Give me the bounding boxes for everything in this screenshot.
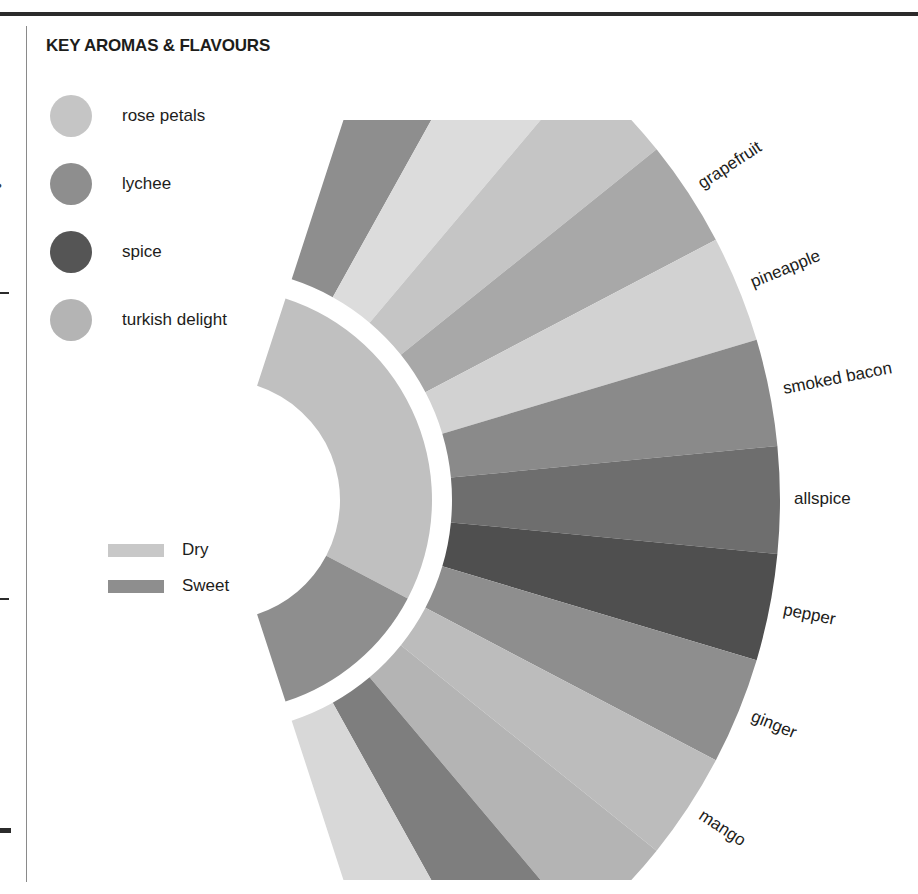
legend-title: KEY AROMAS & FLAVOURS — [46, 36, 376, 56]
aroma-fan-chart: lycheelemon verbenarose petalsgrapefruit… — [150, 120, 918, 880]
aroma-fan-svg: lycheelemon verbenarose petalsgrapefruit… — [150, 120, 918, 880]
page-edge-glyph: • — [0, 176, 2, 196]
wedge-label-allspice: allspice — [794, 489, 851, 508]
wedge-label-mango: mango — [695, 806, 749, 850]
page-edge-mark-top — [0, 292, 9, 294]
wedge-label-smoked-bacon: smoked bacon — [781, 358, 893, 398]
legend-swatch-circle-icon — [50, 231, 92, 273]
page-edge-mark-middle — [0, 598, 9, 600]
legend-swatch-circle-icon — [50, 95, 92, 137]
legend-swatch-circle-icon — [50, 299, 92, 341]
wedge-label-grapefruit: grapefruit — [694, 137, 765, 192]
wedge-label-pepper: pepper — [782, 600, 838, 629]
wedge-label-pineapple: pineapple — [748, 246, 823, 291]
wedge-label-ginger: ginger — [748, 707, 799, 743]
legend-swatch-circle-icon — [50, 163, 92, 205]
page-top-rule — [0, 12, 918, 16]
page-left-divider — [26, 26, 27, 882]
page-edge-mark-bottom — [0, 828, 11, 833]
